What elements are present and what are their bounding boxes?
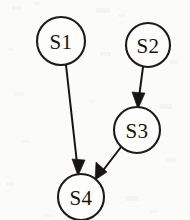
arrowhead-s3-s4 bbox=[95, 162, 107, 180]
node-s1[interactable]: S1 bbox=[37, 17, 85, 65]
node-s3[interactable]: S3 bbox=[114, 107, 160, 153]
node-s3-label: S3 bbox=[126, 119, 149, 143]
node-s4-label: S4 bbox=[70, 186, 93, 210]
node-s2-label: S2 bbox=[137, 34, 160, 58]
edge-s1-s4 bbox=[66, 65, 78, 172]
node-s1-label: S1 bbox=[50, 30, 73, 54]
state-diagram-figure: S1 S2 S3 S4 bbox=[0, 0, 190, 220]
node-group: S1 S2 S3 S4 bbox=[37, 17, 170, 220]
graph-canvas: S1 S2 S3 S4 bbox=[0, 0, 190, 220]
node-s2[interactable]: S2 bbox=[126, 23, 170, 67]
node-s4[interactable]: S4 bbox=[58, 174, 104, 220]
